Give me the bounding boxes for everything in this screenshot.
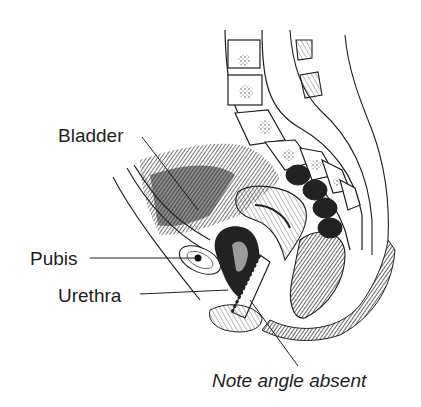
urethra-leader — [140, 290, 228, 294]
perineal-body — [210, 305, 262, 332]
label-urethra: Urethra — [58, 286, 121, 305]
label-pubis: Pubis — [30, 249, 78, 268]
anatomy-diagram: Bladder Pubis Urethra Note angle absent — [0, 0, 421, 407]
pelvis-illustration — [0, 0, 421, 407]
rectum — [291, 232, 345, 318]
label-bladder: Bladder — [58, 126, 124, 145]
label-note-angle-absent: Note angle absent — [212, 371, 366, 390]
